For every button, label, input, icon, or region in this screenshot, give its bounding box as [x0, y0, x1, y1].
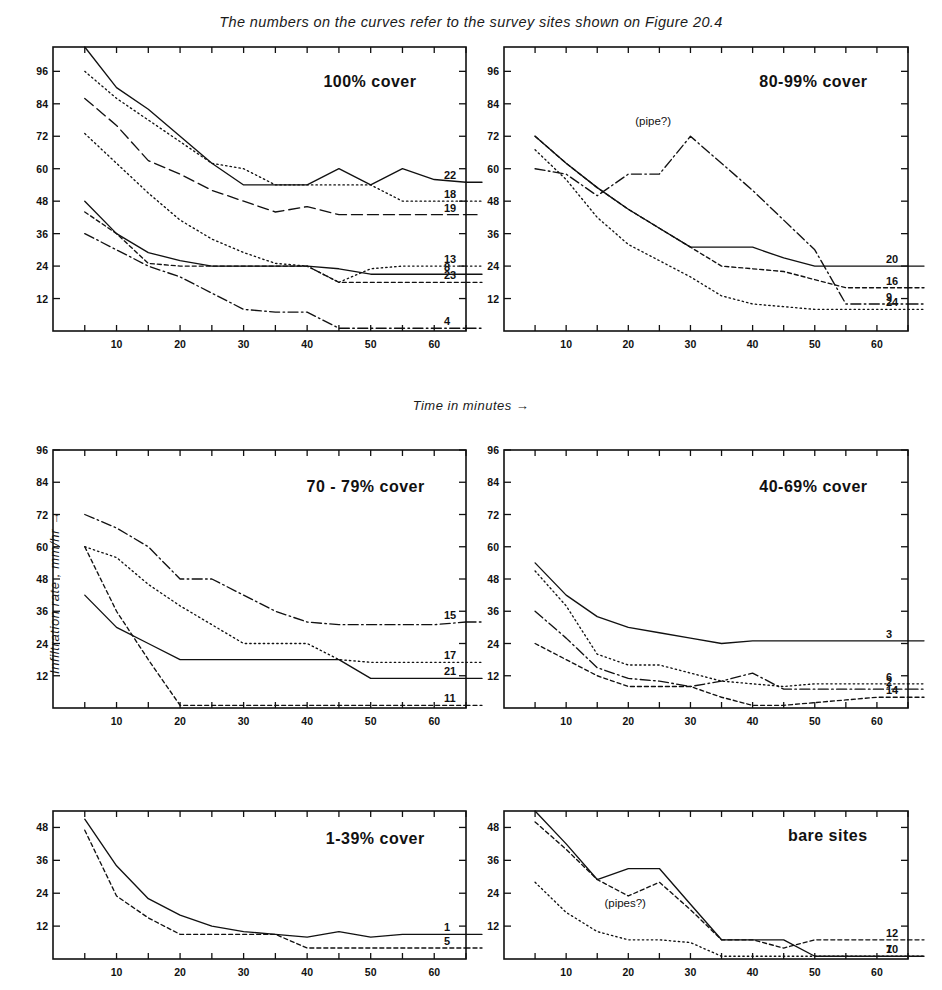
curve-label-17: 17: [444, 649, 456, 661]
y-tick-label: 96: [487, 65, 499, 77]
curve-5: [85, 830, 466, 948]
x-tick-label: 60: [428, 338, 440, 350]
y-tick-label: 12: [487, 670, 499, 682]
y-tick-label: 36: [487, 228, 499, 240]
y-tick-label: 60: [487, 163, 499, 175]
x-tick-label: 50: [365, 338, 377, 350]
panel-100-cover: 1020304050601224364860728496100% cover22…: [53, 47, 506, 357]
x-tick-label: 60: [428, 715, 440, 727]
y-tick-label: 12: [36, 293, 48, 305]
curve-label-11: 11: [444, 692, 456, 704]
x-tick-label: 50: [809, 338, 821, 350]
x-tick-label: 50: [365, 715, 377, 727]
x-tick-label: 10: [560, 715, 572, 727]
y-tick-label: 96: [36, 65, 48, 77]
x-tick-label: 40: [747, 715, 759, 727]
curve-label-12: 12: [886, 927, 898, 939]
panel-40-69-cover: 102030405060122436486072849640-69% cover…: [504, 450, 942, 734]
curve-17: [85, 547, 466, 663]
y-tick-label: 12: [36, 920, 48, 932]
panel-title: 80-99% cover: [759, 73, 867, 90]
x-tick-label: 40: [747, 338, 759, 350]
y-tick-label: 36: [487, 605, 499, 617]
x-tick-label: 30: [238, 715, 250, 727]
x-tick-label: 60: [871, 338, 883, 350]
y-tick-label: 36: [36, 854, 48, 866]
x-tick-label: 30: [685, 338, 697, 350]
figure-infiltration-curves: The numbers on the curves refer to the s…: [0, 0, 942, 990]
x-tick-label: 50: [809, 715, 821, 727]
curve-label-14: 14: [886, 684, 899, 696]
x-tick-label: 40: [301, 966, 313, 978]
curve-label-15: 15: [444, 609, 456, 621]
y-tick-label: 48: [487, 821, 499, 833]
curve-11: [85, 547, 466, 706]
curve-14: [535, 644, 908, 706]
x-tick-label: 30: [685, 715, 697, 727]
x-tick-label: 20: [174, 966, 186, 978]
curve-6: [535, 571, 908, 687]
curve-13: [85, 134, 466, 283]
panel-80-99-cover: 102030405060122436486072849680-99% cover…: [504, 47, 942, 357]
y-tick-label: 48: [36, 573, 48, 585]
figure-caption: The numbers on the curves refer to the s…: [0, 14, 942, 30]
x-tick-label: 60: [871, 715, 883, 727]
curve-label-20: 20: [886, 253, 898, 265]
panel-title: 100% cover: [323, 73, 416, 90]
curve-label-1: 1: [444, 921, 450, 933]
curve-label-7: 7: [886, 943, 892, 955]
chart-annotation: (pipes?): [604, 897, 646, 909]
y-tick-label: 48: [487, 573, 499, 585]
curve-9: [535, 136, 908, 304]
y-tick-label: 12: [487, 920, 499, 932]
curve-15: [85, 515, 466, 625]
curve-label-23: 23: [444, 269, 456, 281]
x-tick-label: 40: [301, 338, 313, 350]
y-tick-label: 24: [36, 887, 48, 899]
y-tick-label: 84: [36, 476, 48, 488]
x-tick-label: 10: [560, 338, 572, 350]
panel-title: bare sites: [788, 827, 868, 844]
y-tick-label: 84: [487, 98, 499, 110]
curve-21: [85, 595, 466, 678]
x-tick-label: 10: [111, 715, 123, 727]
curve-7: [535, 882, 908, 956]
y-tick-label: 12: [36, 670, 48, 682]
curve-23: [85, 212, 466, 282]
x-tick-label: 60: [428, 966, 440, 978]
y-tick-label: 24: [487, 638, 499, 650]
x-tick-label: 20: [622, 966, 634, 978]
y-tick-label: 48: [487, 195, 499, 207]
x-tick-label: 30: [238, 338, 250, 350]
y-tick-label: 96: [487, 444, 499, 456]
panel-70-79-cover: 102030405060122436486072849670 - 79% cov…: [53, 450, 506, 734]
y-tick-label: 12: [487, 293, 499, 305]
curve-label-4: 4: [444, 315, 451, 327]
y-tick-label: 24: [36, 260, 48, 272]
curve-label-16: 16: [886, 275, 898, 287]
curve-label-3: 3: [886, 628, 892, 640]
curve-label-18: 18: [444, 188, 456, 200]
curve-2: [535, 611, 908, 689]
chart-annotation: (pipe?): [635, 115, 671, 127]
curve-label-21: 21: [444, 665, 456, 677]
y-tick-label: 72: [36, 130, 48, 142]
curve-label-22: 22: [444, 169, 456, 181]
x-tick-label: 50: [365, 966, 377, 978]
x-tick-label: 10: [560, 966, 572, 978]
y-tick-label: 48: [36, 821, 48, 833]
x-tick-label: 20: [622, 338, 634, 350]
x-tick-label: 60: [871, 966, 883, 978]
y-tick-label: 24: [487, 260, 499, 272]
curve-24: [535, 150, 908, 310]
y-tick-label: 48: [36, 195, 48, 207]
y-tick-label: 84: [487, 476, 499, 488]
x-tick-label: 30: [238, 966, 250, 978]
curve-label-24: 24: [886, 296, 899, 308]
curve-label-5: 5: [444, 935, 450, 947]
panel-title: 1-39% cover: [326, 830, 425, 847]
x-tick-label: 40: [301, 715, 313, 727]
x-tick-label: 20: [174, 338, 186, 350]
x-tick-label: 10: [111, 966, 123, 978]
y-tick-label: 60: [36, 541, 48, 553]
